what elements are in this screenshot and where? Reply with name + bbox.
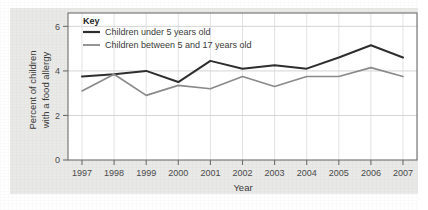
page-canvas: 0246 19971998199920002001200220032004200… (0, 0, 428, 210)
x-tick-label-2004: 2004 (297, 168, 317, 178)
x-tick-label-2002: 2002 (232, 168, 252, 178)
x-axis: 1997199819992000200120022003200420052006… (72, 160, 413, 178)
x-tick-label-2007: 2007 (393, 168, 413, 178)
y-tick-label-0: 0 (55, 155, 60, 165)
y-axis-title: Percent of children with a food allergy (27, 50, 51, 129)
x-tick-label-2006: 2006 (361, 168, 381, 178)
x-tick-label-2000: 2000 (168, 168, 188, 178)
y-tick-label-4: 4 (55, 66, 60, 76)
legend-label-0: Children under 5 years old (105, 27, 211, 37)
x-axis-title: Year (233, 182, 252, 193)
y-tick-label-6: 6 (55, 22, 60, 32)
y-tick-label-2: 2 (55, 111, 60, 121)
y-axis-title-line2: with a food allergy (40, 51, 51, 129)
legend-label-1: Children between 5 and 17 years old (105, 40, 252, 50)
y-axis: 0246 (55, 22, 68, 166)
x-tick-label-2005: 2005 (329, 168, 349, 178)
x-tick-label-1999: 1999 (136, 168, 156, 178)
y-axis-title-line1: Percent of children (27, 50, 38, 129)
x-tick-label-2001: 2001 (200, 168, 220, 178)
legend-title: Key (83, 16, 100, 26)
x-tick-label-1998: 1998 (104, 168, 124, 178)
line-chart: 0246 19971998199920002001200220032004200… (0, 0, 428, 210)
x-tick-label-1997: 1997 (72, 168, 92, 178)
x-tick-label-2003: 2003 (265, 168, 285, 178)
